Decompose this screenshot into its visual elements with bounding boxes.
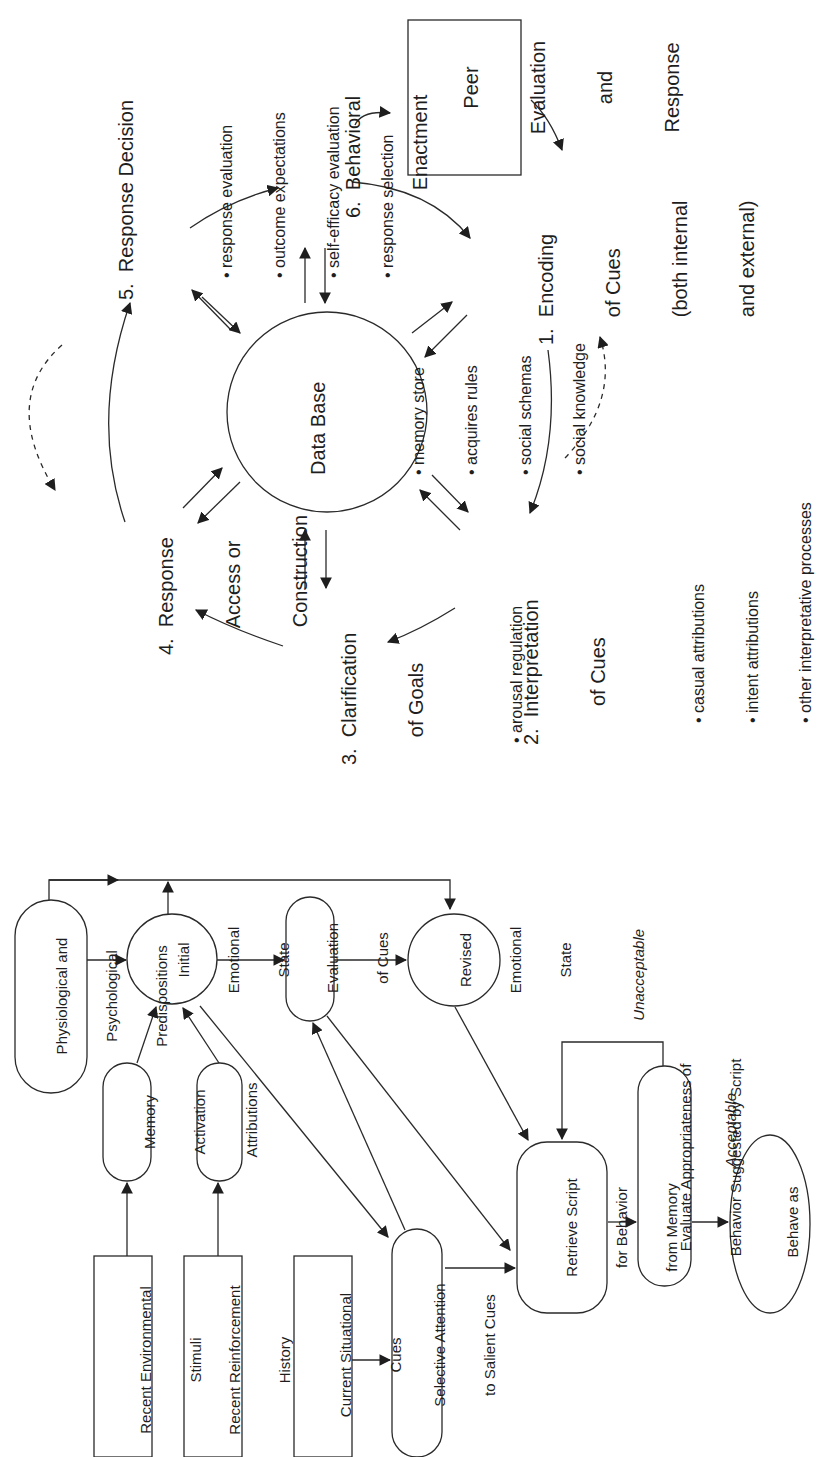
revised-state-label: Revised Emotional State [424, 920, 592, 1000]
evaluation-cues-label: Evaluation of Cues [291, 913, 409, 1003]
recent-reinf-label: Recent Reinforcement History [193, 1265, 311, 1455]
step-2-interpretation: 2. Interpretation of Cues • casual attri… [475, 502, 819, 745]
behave-label: Behave as Script Suggests [751, 1162, 819, 1282]
acceptable-label: Acceptable [706, 1093, 740, 1175]
memory-activation-label: Memory Activation [108, 1077, 226, 1167]
arrow-access-to-decision [109, 303, 130, 522]
initial-state-label: Initial Emotional State [142, 920, 310, 1000]
unacceptable-label: Unacceptable [614, 929, 648, 1029]
database-label: Data Base • memory store • acquires rule… [262, 343, 647, 475]
attributions-label: Attributions [210, 1075, 277, 1165]
step-1-encoding: 1. Encoding of Cues (both internal and e… [490, 200, 781, 345]
peer-evaluation-label: Peer Evaluation and Response [415, 20, 706, 155]
evaluate-label: Evaluate Appropriateness of Behavior Sug… [644, 1050, 762, 1265]
selective-label: Selective Attention to Salient Cues [398, 1250, 516, 1440]
dashed-feedback-left [29, 345, 62, 490]
